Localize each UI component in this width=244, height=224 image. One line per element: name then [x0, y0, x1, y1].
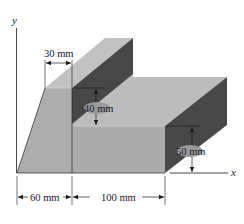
x-axis: x [170, 166, 236, 178]
dim-label-100: 100 mm [101, 192, 136, 203]
front-face [72, 126, 165, 173]
x-axis-label: x [230, 166, 236, 178]
dim-label-50: 50 mm [176, 146, 205, 157]
dim-label-60: 60 mm [30, 192, 59, 203]
y-axis-label: y [11, 14, 17, 26]
dim-bottom: 60 mm 100 mm [17, 176, 165, 205]
dim-label-30: 30 mm [44, 48, 73, 59]
dim-label-40: 40 mm [84, 103, 113, 114]
stepped-block-diagram: y x 30 mm 40 mm [0, 0, 244, 224]
left-sloped-face [17, 88, 72, 173]
y-axis: y [11, 14, 17, 173]
